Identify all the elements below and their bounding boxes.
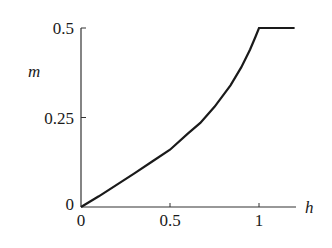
y-tick-label: 0.5 (53, 19, 74, 38)
data-line (81, 28, 295, 207)
x-tick-label: 1 (255, 211, 264, 230)
chart: 00.250.5 00.51 m h (0, 0, 332, 248)
y-tick-label: 0.25 (44, 109, 74, 128)
x-tick-label: 0.5 (159, 211, 180, 230)
y-tick-label: 0 (66, 195, 75, 214)
x-axis-label: h (305, 198, 314, 217)
axes (81, 28, 296, 207)
y-axis-label: m (28, 62, 40, 81)
y-ticks: 00.250.5 (44, 19, 86, 214)
x-tick-label: 0 (77, 211, 86, 230)
